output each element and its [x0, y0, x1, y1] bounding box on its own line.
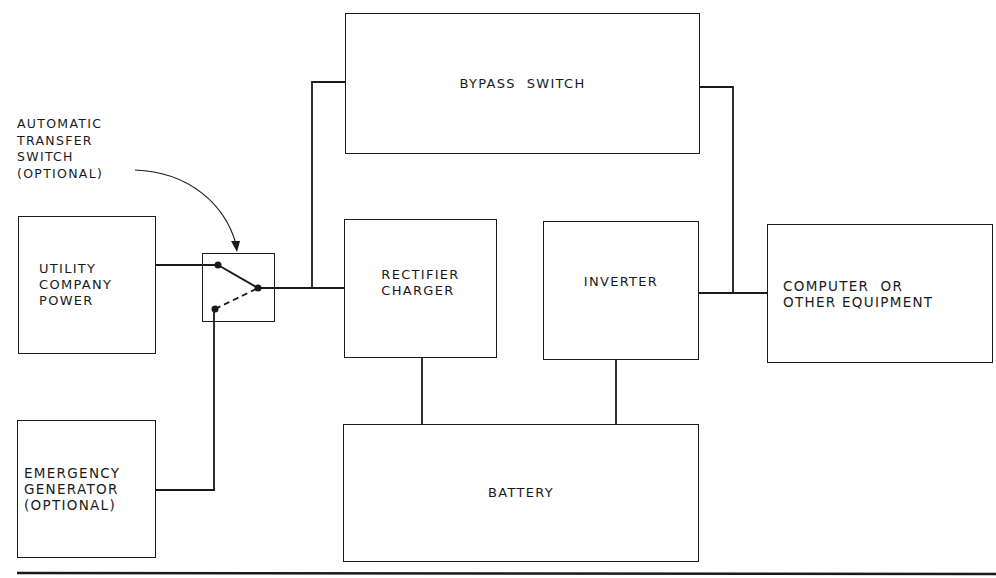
utility-power-label: UTILITY COMPANY POWER [39, 261, 112, 309]
battery-block: BATTERY [343, 424, 699, 562]
rectifier-charger-block: RECTIFIER CHARGER [344, 219, 497, 358]
inverter-label: INVERTER [584, 274, 658, 290]
bypass-switch-label: BYPASS SWITCH [460, 76, 586, 92]
battery-label: BATTERY [488, 485, 554, 501]
rectifier-charger-label: RECTIFIER CHARGER [381, 267, 459, 299]
arrowhead-icon [231, 241, 240, 252]
inverter-block: INVERTER [543, 221, 699, 360]
transfer-switch-box [202, 253, 275, 322]
computer-equipment-block: COMPUTER OR OTHER EQUIPMENT [767, 224, 993, 363]
bypass-switch-block: BYPASS SWITCH [345, 13, 700, 154]
utility-power-block: UTILITY COMPANY POWER [18, 216, 156, 354]
computer-equipment-label: COMPUTER OR OTHER EQUIPMENT [783, 278, 933, 310]
transfer-switch-annotation: AUTOMATIC TRANSFER SWITCH (OPTIONAL) [17, 116, 103, 182]
emergency-generator-block: EMERGENCY GENERATOR (OPTIONAL) [17, 420, 156, 558]
emergency-generator-label: EMERGENCY GENERATOR (OPTIONAL) [24, 465, 120, 513]
